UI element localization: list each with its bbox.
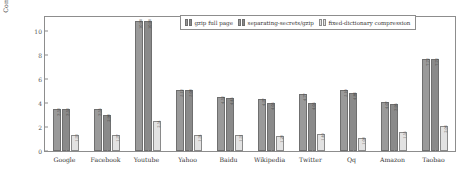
bar-value-label: 4.52 — [221, 96, 225, 104]
x-tick-label: Amazon — [380, 156, 405, 163]
bars-container: 3.533.531.333.552.981.3710.9010.902.545.… — [45, 17, 455, 151]
y-tick-mark — [45, 79, 48, 80]
bar-value-label: 5.12 — [180, 89, 184, 97]
bar: 3.55 — [94, 109, 102, 151]
bar: 1.08 — [358, 138, 366, 151]
x-tick-mark — [107, 148, 108, 151]
y-tick-mark — [45, 31, 48, 32]
bar: 1.31 — [235, 135, 243, 151]
bar-group: 3.533.531.33 — [45, 17, 86, 151]
bar: 1.34 — [194, 135, 202, 151]
legend-item-fixed-dictionary-compression: fixed-dictionary compression — [319, 19, 411, 26]
bar: 3.95 — [390, 104, 398, 151]
x-tick-label: Qq — [347, 156, 356, 163]
bar-value-label: 1.37 — [116, 134, 120, 142]
x-tick-mark — [148, 148, 149, 151]
x-tick-mark — [189, 148, 190, 151]
bar-value-label: 1.31 — [239, 135, 243, 143]
x-tick-label: Facebook — [91, 156, 121, 163]
bar: 10.90 — [144, 21, 152, 151]
bar-value-label: 2.98 — [107, 115, 111, 123]
bar: 1.33 — [71, 135, 79, 151]
x-tick-label: Youtube — [134, 156, 159, 163]
y-axis-title: Compression ratio — [2, 0, 9, 38]
bar-value-label: 4.07 — [385, 102, 389, 110]
chart-legend: gzip full page separating-secrets/gzip f… — [180, 15, 416, 30]
y-tick-label: 6 — [38, 76, 42, 83]
bar-value-label: 7.72 — [426, 58, 430, 66]
bar-value-label: 1.34 — [198, 134, 202, 142]
bar-value-label: 5.10 — [344, 89, 348, 97]
bar-group: 4.374.051.28 — [250, 17, 291, 151]
legend-item-gzip-full-page: gzip full page — [185, 19, 233, 26]
chart-figure: Compression ratio 3.533.531.333.552.981.… — [0, 0, 468, 183]
bar-value-label: 1.28 — [280, 135, 284, 143]
bar-group: 5.125.081.34 — [168, 17, 209, 151]
bar-value-label: 4.37 — [262, 98, 266, 106]
y-tick-mark — [45, 127, 48, 128]
y-tick-mark — [45, 103, 48, 104]
x-tick-label: Baidu — [219, 156, 237, 163]
bar-value-label: 1.33 — [75, 134, 79, 142]
bar: 3.53 — [53, 109, 61, 151]
bar-group: 4.073.951.55 — [373, 17, 414, 151]
bar-value-label: 2.06 — [444, 126, 448, 134]
bar: 5.12 — [176, 90, 184, 151]
x-tick-label: Google — [54, 156, 76, 163]
y-tick-label: 8 — [38, 52, 42, 59]
bar-value-label: 3.53 — [66, 108, 70, 116]
bar: 2.06 — [440, 126, 448, 151]
bar: 7.72 — [422, 59, 430, 151]
bar-value-label: 3.55 — [98, 108, 102, 116]
x-tick-mark — [435, 148, 436, 151]
bar: 10.90 — [135, 21, 143, 151]
bar: 5.10 — [340, 90, 348, 151]
bar-group: 4.774.051.40 — [291, 17, 332, 151]
bar-value-label: 4.05 — [312, 102, 316, 110]
bar: 4.86 — [349, 93, 357, 151]
x-tick-mark — [66, 148, 67, 151]
bar-value-label: 7.72 — [435, 58, 439, 66]
bar-value-label: 2.54 — [157, 120, 161, 128]
bar-value-label: 4.45 — [230, 97, 234, 105]
bar-value-label: 1.40 — [321, 133, 325, 141]
bar-value-label: 4.05 — [271, 102, 275, 110]
bar: 2.98 — [103, 115, 111, 151]
bar: 4.52 — [217, 97, 225, 151]
bar-value-label: 10.90 — [148, 19, 152, 29]
x-tick-label: Wikipedia — [254, 156, 285, 163]
bar-value-label: 3.95 — [394, 103, 398, 111]
bar-value-label: 1.55 — [403, 132, 407, 140]
x-tick-label: Twitter — [299, 156, 322, 163]
bar-value-label: 4.86 — [353, 92, 357, 100]
bar: 2.54 — [153, 121, 161, 151]
x-tick-mark — [394, 148, 395, 151]
legend-swatch-icon — [185, 19, 192, 26]
bar: 4.07 — [381, 102, 389, 151]
y-tick-mark — [45, 151, 48, 152]
y-tick-mark — [45, 55, 48, 56]
y-tick-label: 2 — [38, 124, 42, 131]
bar-value-label: 10.90 — [139, 19, 143, 29]
bar-group: 7.727.722.06 — [414, 17, 455, 151]
x-tick-label: Yahoo — [178, 156, 197, 163]
y-tick-label: 10 — [34, 28, 42, 35]
y-tick-label: 4 — [38, 100, 42, 107]
bar-value-label: 3.53 — [57, 108, 61, 116]
bar-group: 3.552.981.37 — [86, 17, 127, 151]
bar-value-label: 1.08 — [362, 137, 366, 145]
bar: 3.53 — [62, 109, 70, 151]
bar: 4.05 — [308, 103, 316, 151]
bar-value-label: 4.77 — [303, 93, 307, 101]
bar: 7.72 — [431, 59, 439, 151]
legend-label: separating-secrets/gzip — [248, 20, 314, 26]
bar: 4.37 — [258, 99, 266, 151]
legend-label: fixed-dictionary compression — [328, 20, 410, 26]
x-tick-label: Taobao — [422, 156, 444, 163]
bar: 5.08 — [185, 90, 193, 151]
bar-value-label: 5.08 — [189, 89, 193, 97]
bar: 4.45 — [226, 98, 234, 151]
legend-label: gzip full page — [195, 20, 234, 26]
bar-group: 4.524.451.31 — [209, 17, 250, 151]
plot-area: 3.533.531.333.552.981.3710.9010.902.545.… — [44, 16, 456, 152]
